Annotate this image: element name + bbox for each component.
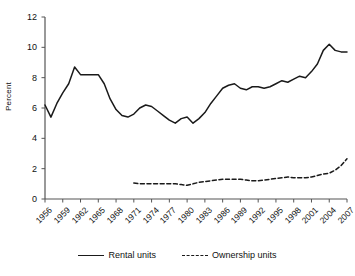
plot-area — [0, 0, 355, 276]
y-axis-tick-label: 0 — [15, 194, 37, 204]
legend-line-dashed-icon — [182, 255, 208, 256]
legend-label-rental-units: Rental units — [108, 250, 156, 260]
y-axis-tick-label: 12 — [15, 12, 37, 22]
y-axis-tick-label: 2 — [15, 164, 37, 174]
legend-line-solid-icon — [78, 255, 104, 256]
series-line-rental-units — [45, 44, 347, 123]
y-axis-title: Percent — [4, 67, 13, 127]
y-axis-tick-label: 6 — [15, 103, 37, 113]
y-axis-tick-label: 8 — [15, 73, 37, 83]
series-line-ownership-units — [134, 159, 347, 186]
y-axis-tick-label: 4 — [15, 133, 37, 143]
chart-legend: Rental units Ownership units — [0, 250, 355, 260]
legend-entry-rental-units: Rental units — [78, 250, 156, 260]
legend-label-ownership-units: Ownership units — [212, 250, 277, 260]
y-axis-tick-label: 10 — [15, 42, 37, 52]
chart-figure: Percent 024681012 1956195919621965196819… — [0, 0, 355, 276]
legend-entry-ownership-units: Ownership units — [182, 250, 277, 260]
